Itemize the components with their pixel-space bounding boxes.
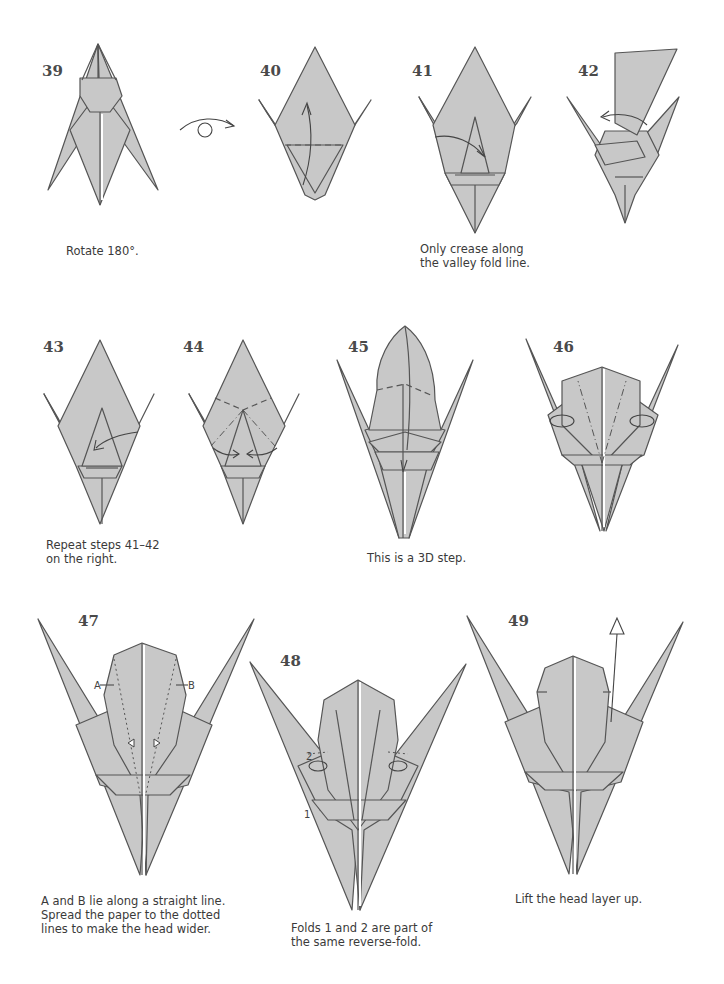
label-1: 1	[304, 809, 310, 820]
caption-step-49: Lift the head layer up.	[515, 892, 642, 906]
diagram-step-41	[415, 45, 535, 235]
diagram-step-44	[185, 338, 305, 528]
caption-step-41: Only crease along the valley fold line.	[420, 242, 530, 270]
diagram-step-49	[465, 612, 695, 887]
diagram-step-40	[255, 45, 375, 235]
label-a: A	[94, 680, 101, 691]
caption-step-48: Folds 1 and 2 are part of the same rever…	[291, 921, 432, 949]
rotate-symbol	[178, 112, 240, 144]
diagram-step-46	[522, 335, 682, 535]
label-b: B	[188, 680, 195, 691]
diagram-step-47: A B	[36, 615, 256, 890]
diagram-step-45	[335, 320, 475, 540]
caption-step-39: Rotate 180°.	[66, 244, 139, 258]
caption-step-47: A and B lie along a straight line. Sprea…	[41, 894, 225, 936]
diagram-step-42	[565, 45, 685, 235]
caption-step-45: This is a 3D step.	[367, 551, 466, 565]
diagram-step-39	[40, 40, 170, 210]
label-2: 2	[306, 751, 312, 762]
diagram-step-48: 2 1	[248, 660, 468, 920]
diagram-step-43	[40, 338, 160, 528]
caption-step-43: Repeat steps 41–42 on the right.	[46, 538, 160, 566]
